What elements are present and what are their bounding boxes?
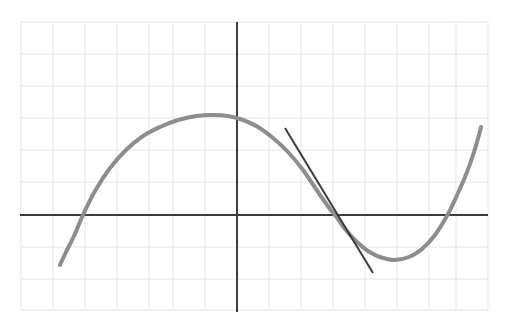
plot-background [0, 0, 512, 321]
cubic-function-plot [0, 0, 512, 321]
graph-figure [0, 0, 512, 321]
